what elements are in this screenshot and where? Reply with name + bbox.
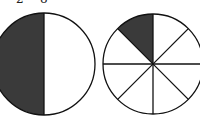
eighths-circle-figure [103,14,200,114]
shaded-eighth [118,14,153,64]
shaded-half [0,13,44,115]
half-circle-figure [0,13,95,115]
fraction-circles-diagram [0,0,200,117]
